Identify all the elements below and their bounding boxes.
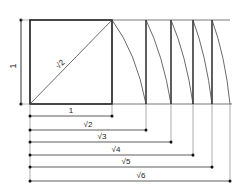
dimension-label: √4 bbox=[112, 145, 121, 154]
height-dimension: 1 bbox=[8, 18, 30, 105]
height-label: 1 bbox=[8, 63, 18, 68]
dimension-root3: √3 bbox=[29, 132, 173, 144]
dimension-label: √6 bbox=[137, 171, 146, 180]
unit-square: √2 bbox=[30, 20, 112, 104]
dimension-root6: √6 bbox=[29, 171, 232, 183]
dimension-root2: √2 bbox=[29, 120, 148, 132]
dimension-label: √3 bbox=[98, 132, 107, 141]
dimension-root4: √4 bbox=[29, 145, 195, 157]
dimension-1: 1 bbox=[29, 106, 114, 118]
dimension-label: √5 bbox=[122, 157, 131, 166]
rectangle-edges bbox=[146, 20, 212, 104]
root-rectangles-diagram: 1 √2 bbox=[0, 0, 241, 191]
dimension-root5: √5 bbox=[29, 157, 214, 169]
dimension-label: 1 bbox=[69, 106, 74, 115]
dimension-label: √2 bbox=[84, 120, 93, 129]
